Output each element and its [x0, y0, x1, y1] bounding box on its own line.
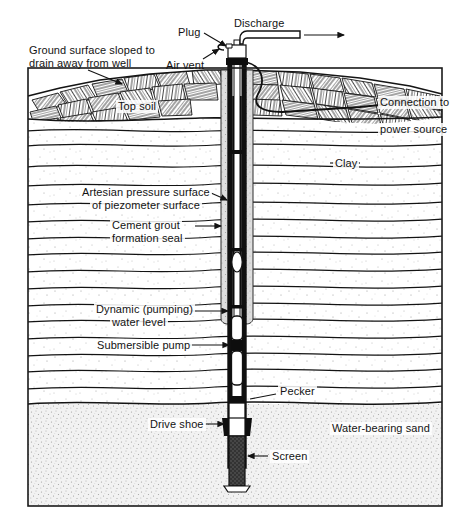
- pecker-component: [229, 396, 245, 403]
- label-artesian-line2: of piezometer surface: [90, 199, 202, 212]
- label-ground-surface-line1: Ground surface sloped to: [29, 44, 155, 57]
- label-pecker: Pecker: [278, 385, 317, 398]
- label-top-soil: Top soil: [116, 100, 158, 113]
- label-discharge: Discharge: [234, 17, 284, 30]
- label-cement-line1: Cement grout: [110, 219, 182, 232]
- label-connection-line1: Connection to: [378, 96, 451, 109]
- label-dynamic-line1: Dynamic (pumping): [94, 303, 195, 316]
- label-drive-shoe: Drive shoe: [148, 418, 206, 431]
- label-air-vent: Air vent: [166, 59, 204, 72]
- label-cement-line2: formation seal: [110, 232, 185, 245]
- submersible-pump-body: [232, 316, 243, 385]
- drive-shoe-component: [222, 418, 252, 436]
- label-submersible-pump: Submersible pump: [95, 339, 192, 352]
- well-cross-section-figure: [0, 0, 471, 528]
- label-screen: Screen: [270, 450, 309, 463]
- label-dynamic-line2: water level: [110, 316, 168, 329]
- label-ground-surface-line2: drain away from well: [29, 57, 131, 70]
- label-water-bearing-sand: Water-bearing sand: [330, 422, 432, 435]
- label-artesian-line1: Artesian pressure surface: [80, 186, 212, 199]
- wellhead-assembly: [218, 31, 344, 65]
- label-plug: Plug: [178, 26, 200, 39]
- label-clay: Clay: [333, 157, 359, 170]
- label-connection-line2: power source: [378, 123, 449, 136]
- diagram-canvas: Ground surface sloped to drain away from…: [0, 0, 471, 528]
